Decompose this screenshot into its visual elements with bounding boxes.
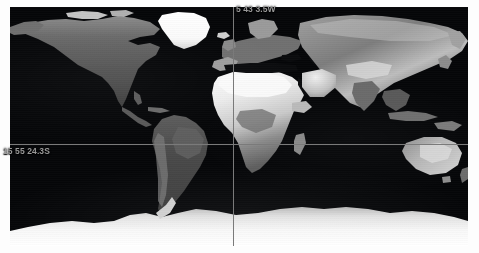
longitude-readout: 5 43 3.5W — [236, 4, 276, 14]
map-application: 5 43 3.5W 15 55 24.3S — [0, 0, 479, 253]
mediterranean-sea — [224, 63, 298, 73]
world-map-image[interactable] — [10, 7, 468, 246]
latitude-readout: 15 55 24.3S — [3, 146, 50, 156]
map-viewport[interactable] — [10, 7, 468, 246]
tasmania-island — [442, 176, 451, 183]
